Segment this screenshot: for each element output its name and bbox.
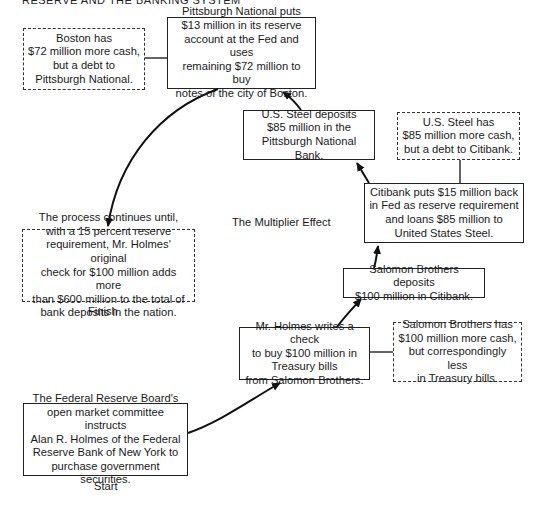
node-text: Boston has $72 million more cash, but a … bbox=[28, 32, 140, 86]
node-text: The process continues until, with a 15 p… bbox=[27, 211, 190, 320]
node-text: U.S. Steel has $85 million more cash, bu… bbox=[403, 116, 515, 157]
node-text: Salomon Brothers has $100 million more c… bbox=[398, 318, 517, 386]
node-text: The Federal Reserve Board's open market … bbox=[28, 392, 183, 487]
node-text: Pittsburgh National puts $13 million in … bbox=[172, 5, 311, 100]
node-text: Mr. Holmes writes a check to buy $100 mi… bbox=[244, 320, 365, 388]
node-text: Salomon Brothers deposits $100 million i… bbox=[348, 263, 480, 304]
node-text: Citibank puts $15 million back in Fed as… bbox=[369, 186, 518, 240]
arrow-pittsburgh-to-process bbox=[108, 89, 218, 226]
diagram-title: The Multiplier Effect bbox=[232, 216, 331, 228]
node-boston-has: Boston has $72 million more cash, but a … bbox=[23, 28, 145, 90]
arrow-fed-to-holmes bbox=[188, 383, 280, 433]
node-salomon-has: Salomon Brothers has $100 million more c… bbox=[393, 322, 522, 382]
node-salomon-deposits: Salomon Brothers deposits $100 million i… bbox=[343, 268, 485, 298]
node-steel-has: U.S. Steel has $85 million more cash, bu… bbox=[397, 112, 520, 160]
node-fed-board: The Federal Reserve Board's open market … bbox=[23, 403, 188, 476]
node-steel-deposits: U.S. Steel deposits $85 million in the P… bbox=[243, 110, 375, 160]
node-text: U.S. Steel deposits $85 million in the P… bbox=[248, 108, 370, 162]
node-holmes-check: Mr. Holmes writes a check to buy $100 mi… bbox=[239, 327, 370, 380]
arrow-citibank-to-steel-deposits bbox=[357, 163, 369, 183]
start-label: Start bbox=[94, 480, 118, 492]
finish-label: Finish bbox=[88, 305, 118, 317]
node-process-continues: The process continues until, with a 15 p… bbox=[22, 229, 195, 302]
node-pittsburgh-puts: Pittsburgh National puts $13 million in … bbox=[167, 17, 316, 89]
node-citibank-puts: Citibank puts $15 million back in Fed as… bbox=[364, 183, 524, 243]
